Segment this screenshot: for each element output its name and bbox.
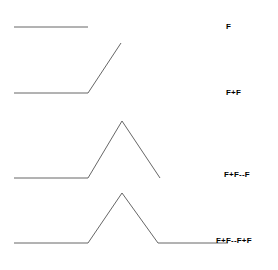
curve-canvas	[0, 0, 278, 270]
lsystem-label-step-2: F+F--F	[224, 171, 250, 179]
lsystem-figure: F F+F F+F--F F+F--F+F	[0, 0, 278, 270]
lsystem-label-step-3: F+F--F+F	[216, 237, 252, 245]
curve-step-1	[14, 43, 121, 93]
curve-step-2	[14, 121, 160, 178]
lsystem-label-step-1: F+F	[226, 89, 241, 97]
lsystem-label-step-0: F	[226, 23, 231, 31]
curve-step-3	[14, 193, 228, 243]
